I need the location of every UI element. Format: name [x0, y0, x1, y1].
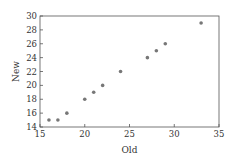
x-tick-label: 25	[124, 129, 135, 139]
data-point	[56, 118, 60, 122]
data-point	[119, 70, 123, 74]
x-axis: 1520253035	[35, 124, 225, 139]
y-tick-label: 26	[26, 39, 37, 49]
data-point	[164, 42, 168, 46]
x-axis-label: Old	[121, 145, 137, 155]
y-tick-label: 14	[26, 122, 37, 132]
y-tick-label: 16	[26, 108, 37, 118]
y-tick-label: 24	[26, 53, 37, 63]
y-tick-label: 20	[26, 80, 37, 90]
y-tick-label: 30	[26, 11, 37, 21]
x-tick-label: 35	[214, 129, 225, 139]
data-points	[47, 21, 203, 122]
x-tick-label: 20	[79, 129, 90, 139]
y-axis-label: New	[11, 61, 21, 82]
y-tick-label: 28	[26, 25, 37, 35]
data-point	[92, 91, 96, 95]
data-point	[83, 97, 87, 101]
x-tick-label: 30	[169, 129, 180, 139]
data-point	[65, 111, 69, 115]
data-point	[155, 49, 159, 53]
data-point	[101, 84, 105, 88]
data-point	[199, 21, 203, 25]
scatter-chart: 1520253035 141618202224262830 Old New	[0, 0, 233, 161]
y-tick-label: 22	[26, 67, 37, 77]
data-point	[146, 56, 150, 60]
y-axis: 141618202224262830	[26, 11, 43, 132]
data-point	[47, 118, 51, 122]
plot-area-frame	[40, 16, 219, 127]
y-tick-label: 18	[26, 94, 37, 104]
